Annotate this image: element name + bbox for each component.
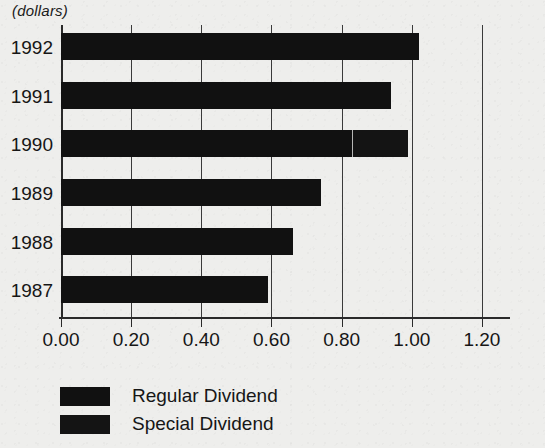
x-tick-label: 0.20	[113, 329, 150, 351]
x-tick-label: 0.60	[253, 329, 290, 351]
plot-area	[61, 25, 510, 317]
year-label-1991: 1991	[0, 86, 53, 108]
units-label: (dollars)	[12, 2, 68, 19]
year-label-1989: 1989	[0, 183, 53, 205]
bar-segment-regular-dividend	[61, 179, 321, 206]
bar-segment-regular-dividend	[61, 33, 419, 60]
gridline-0.20	[131, 25, 132, 317]
tick-0.40	[201, 319, 202, 327]
chart-legend: Regular DividendSpecial Dividend	[60, 382, 278, 438]
bar-segment-regular-dividend	[61, 276, 268, 303]
x-tick-label: 0.00	[43, 329, 80, 351]
legend-swatch	[60, 415, 110, 434]
bar-segment-special-dividend	[352, 130, 408, 157]
legend-label: Regular Dividend	[132, 385, 278, 407]
tick-0.80	[342, 319, 343, 327]
y-axis-line	[61, 25, 63, 317]
gridline-0.60	[271, 25, 272, 317]
gridline-1.20	[482, 25, 483, 317]
year-label-1988: 1988	[0, 232, 53, 254]
x-tick-label: 1.00	[393, 329, 430, 351]
year-label-1990: 1990	[0, 134, 53, 156]
gridline-1.00	[412, 25, 413, 317]
bar-segment-regular-dividend	[61, 82, 391, 109]
tick-0.20	[131, 319, 132, 327]
gridline-0.80	[342, 25, 343, 317]
year-label-1987: 1987	[0, 280, 53, 302]
legend-item: Special Dividend	[60, 410, 278, 438]
tick-0.00	[61, 319, 62, 327]
x-tick-label: 0.80	[323, 329, 360, 351]
year-label-1992: 1992	[0, 37, 53, 59]
tick-0.60	[271, 319, 272, 327]
chart-page: (dollars) 199219911990198919881987 0.000…	[0, 0, 545, 448]
x-axis-line	[59, 317, 510, 319]
gridline-0.40	[201, 25, 202, 317]
x-tick-label: 1.20	[463, 329, 500, 351]
tick-1.20	[482, 319, 483, 327]
legend-swatch	[60, 387, 110, 406]
x-tick-label: 0.40	[183, 329, 220, 351]
bar-segment-regular-dividend	[61, 228, 293, 255]
legend-label: Special Dividend	[132, 413, 274, 435]
legend-item: Regular Dividend	[60, 382, 278, 410]
bar-segment-regular-dividend	[61, 130, 352, 157]
tick-1.00	[412, 319, 413, 327]
